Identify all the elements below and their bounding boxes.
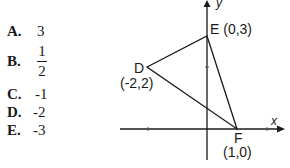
point-f-coords: (1,0)	[223, 144, 252, 160]
y-axis-arrow-icon	[204, 0, 211, 7]
y-axis-label: y	[215, 0, 223, 10]
point-d-name: D	[134, 60, 144, 76]
point-e-label: E (0,3)	[210, 21, 252, 37]
point-d-coords: (-2,2)	[120, 75, 153, 91]
x-axis-label: x	[270, 114, 278, 128]
coordinate-diagram: y x E (0,3) D (-2,2) F (1,0)	[0, 0, 290, 168]
x-axis-arrow-icon	[277, 126, 285, 133]
triangle-def	[147, 36, 237, 129]
